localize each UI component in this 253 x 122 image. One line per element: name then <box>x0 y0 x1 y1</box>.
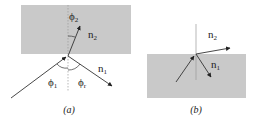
refraction-diagram: ϕ2 n2 n1 ϕ1 ϕr (a) n2 n1 (b) <box>0 0 253 122</box>
panel-a: ϕ2 n2 n1 ϕ1 ϕr (a) <box>11 5 131 116</box>
medium-n1-shaded <box>147 54 246 98</box>
panel-b: n2 n1 (b) <box>147 24 246 116</box>
incident-ray <box>11 57 66 98</box>
svg-text:n2: n2 <box>208 28 218 42</box>
caption-a: (a) <box>63 104 75 116</box>
svg-text:ϕ1: ϕ1 <box>48 76 58 90</box>
medium-n2-shaded <box>21 5 131 54</box>
svg-text:ϕr: ϕr <box>78 76 87 90</box>
svg-text:n1: n1 <box>98 62 108 76</box>
caption-b: (b) <box>190 104 202 116</box>
angle-arc-phi1 <box>57 64 68 68</box>
angle-arc-phir <box>68 64 80 70</box>
refracted-ray <box>196 48 230 54</box>
